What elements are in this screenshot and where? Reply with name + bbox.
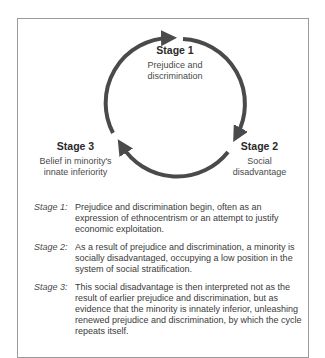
stage-3-title: Stage 3: [28, 140, 123, 153]
stage-2-desc-line2: disadvantage: [222, 167, 297, 178]
stage-2-title: Stage 2: [222, 140, 297, 153]
legend-row-stage-3: Stage 3: This social disadvantage is the…: [34, 282, 304, 337]
stage-3-desc-line2: innate inferiority: [28, 167, 123, 178]
legend-key: Stage 2:: [34, 242, 75, 275]
stage-1-desc-line2: discrimination: [130, 71, 220, 82]
stage-1-label: Stage 1 Prejudice and discrimination: [130, 44, 220, 82]
legend-text: Prejudice and discrimination begin, ofte…: [75, 202, 304, 235]
stage-2-label: Stage 2 Social disadvantage: [222, 140, 297, 178]
arrow-stage2-to-stage3: [122, 146, 228, 177]
stage-legend: Stage 1: Prejudice and discrimination be…: [34, 202, 304, 344]
stage-3-desc-line1: Belief in minority's: [28, 156, 123, 167]
legend-text: As a result of prejudice and discriminat…: [75, 242, 304, 275]
legend-key: Stage 1:: [34, 202, 75, 235]
legend-key: Stage 3:: [34, 282, 75, 337]
legend-row-stage-2: Stage 2: As a result of prejudice and di…: [34, 242, 304, 275]
stage-1-title: Stage 1: [130, 44, 220, 57]
stage-2-desc-line1: Social: [222, 156, 297, 167]
legend-row-stage-1: Stage 1: Prejudice and discrimination be…: [34, 202, 304, 235]
legend-text: This social disadvantage is then interpr…: [75, 282, 304, 337]
stage-3-label: Stage 3 Belief in minority's innate infe…: [28, 140, 123, 178]
stage-1-desc-line1: Prejudice and: [130, 60, 220, 71]
